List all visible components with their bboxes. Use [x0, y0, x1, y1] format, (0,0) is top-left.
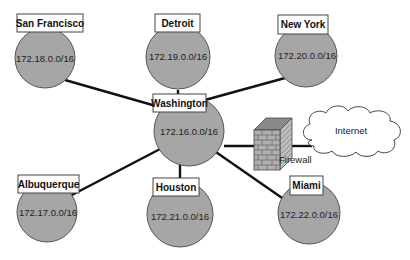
detroit-network: 172.19.0.0/16: [149, 51, 207, 62]
miami-label: Miami: [292, 180, 321, 191]
new-york-label: New York: [281, 19, 326, 30]
node-washington[interactable]: Washington 172.16.0.0/16: [151, 94, 224, 166]
miami-network: 172.22.0.0/16: [280, 209, 338, 220]
san-francisco-network: 172.18.0.0/16: [16, 53, 74, 64]
network-diagram: San Francisco 172.18.0.0/16 Detroit 172.…: [0, 0, 410, 260]
node-houston[interactable]: Houston 172.21.0.0/16: [147, 178, 213, 247]
node-miami[interactable]: Miami 172.22.0.0/16: [278, 176, 340, 244]
internet-label: Internet: [335, 125, 368, 136]
new-york-network: 172.20.0.0/16: [278, 50, 336, 61]
node-albuquerque[interactable]: Albuquerque 172.17.0.0/16: [17, 175, 80, 242]
washington-label: Washington: [151, 98, 208, 109]
link-washington-albuquerque: [70, 148, 162, 196]
houston-network: 172.21.0.0/16: [151, 211, 209, 222]
detroit-label: Detroit: [161, 18, 194, 29]
houston-label: Houston: [156, 182, 197, 193]
washington-network: 172.16.0.0/16: [160, 126, 218, 137]
node-san-francisco[interactable]: San Francisco 172.18.0.0/16: [15, 14, 84, 88]
firewall-label: Firewall: [279, 154, 312, 165]
node-detroit[interactable]: Detroit 172.19.0.0/16: [146, 14, 210, 89]
internet[interactable]: Internet: [303, 106, 400, 156]
node-new-york[interactable]: New York 172.20.0.0/16: [275, 15, 337, 87]
albuquerque-label: Albuquerque: [18, 179, 80, 190]
firewall[interactable]: Firewall: [254, 118, 312, 170]
san-francisco-label: San Francisco: [16, 18, 84, 29]
albuquerque-network: 172.17.0.0/16: [19, 207, 77, 218]
link-washington-new-york: [205, 78, 285, 100]
